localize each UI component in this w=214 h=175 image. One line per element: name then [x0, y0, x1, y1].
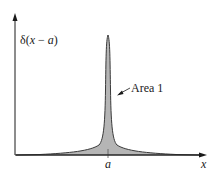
delta-function-chart: δ(x − a) Area 1 a x [0, 0, 214, 175]
area-annotation: Area 1 [131, 81, 163, 95]
x-axis-label: x [200, 157, 207, 171]
x-tick-label-a: a [105, 157, 111, 171]
y-axis-label: δ(x − a) [20, 33, 58, 47]
y-axis-arrow-icon [13, 13, 18, 21]
delta-peak-area [16, 35, 200, 155]
annotation-arrowhead-icon [117, 91, 124, 96]
